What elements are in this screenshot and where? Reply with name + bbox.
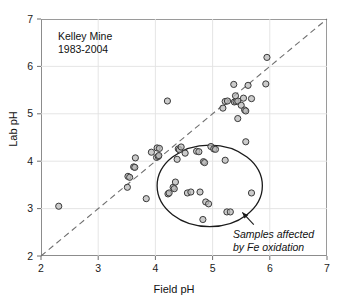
fe-oxidation-annotation: Samples affected by Fe oxidation bbox=[233, 228, 314, 254]
y-tick-label: 4 bbox=[5, 156, 33, 167]
annotation-line1: Samples affected bbox=[233, 228, 314, 241]
x-tick-label: 5 bbox=[198, 263, 228, 274]
y-axis-title: Lab pH bbox=[7, 94, 19, 164]
chart-figure: Kelley Mine 1983-2004 Samples affected b… bbox=[0, 0, 348, 306]
x-tick-label: 2 bbox=[26, 263, 56, 274]
annotation-line2: by Fe oxidation bbox=[233, 241, 314, 254]
y-tick-label: 6 bbox=[5, 61, 33, 72]
y-tick-label: 7 bbox=[5, 14, 33, 25]
chart-title-line1: Kelley Mine bbox=[58, 30, 112, 43]
data-points bbox=[56, 54, 270, 222]
x-tick-label: 6 bbox=[255, 263, 285, 274]
chart-title-block: Kelley Mine 1983-2004 bbox=[58, 30, 112, 56]
chart-title-line2: 1983-2004 bbox=[58, 43, 112, 56]
x-axis-title: Field pH bbox=[0, 283, 348, 295]
x-tick-label: 7 bbox=[312, 263, 342, 274]
y-tick-label: 5 bbox=[5, 108, 33, 119]
y-tick-label: 3 bbox=[5, 203, 33, 214]
x-tick-label: 3 bbox=[83, 263, 113, 274]
chart-canvas bbox=[0, 0, 348, 306]
y-tick-label: 2 bbox=[5, 251, 33, 262]
x-tick-label: 4 bbox=[140, 263, 170, 274]
